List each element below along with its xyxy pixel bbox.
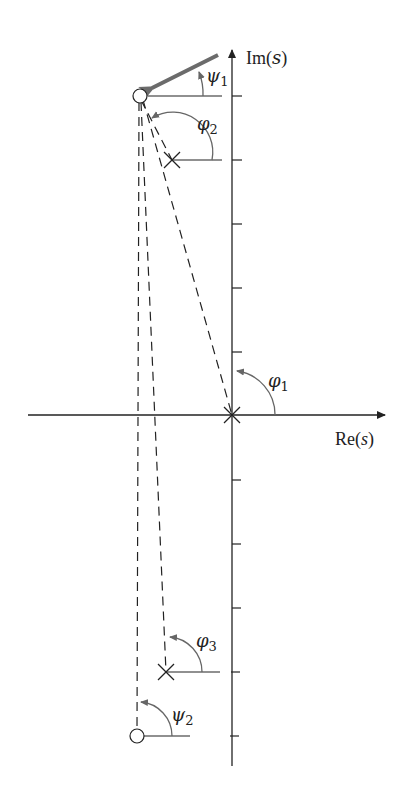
- psi1-label: ψ1: [206, 65, 228, 89]
- phi1-label: φ1: [268, 370, 289, 394]
- root-locus-diagram: Im(s) Re(s) ψ1 φ2 φ1 φ3 ψ2: [0, 0, 406, 798]
- zero-marker-lower: [130, 729, 144, 743]
- phi3-label: φ3: [196, 630, 217, 654]
- psi1-arc: [199, 72, 203, 96]
- phi2-label: φ2: [197, 113, 218, 137]
- real-axis-label: Re(s): [335, 429, 374, 450]
- psi2-label: ψ2: [171, 704, 193, 728]
- imag-axis-label: Im(s): [246, 47, 287, 69]
- zero-marker-upper: [133, 89, 147, 103]
- psi2-arc: [141, 702, 172, 736]
